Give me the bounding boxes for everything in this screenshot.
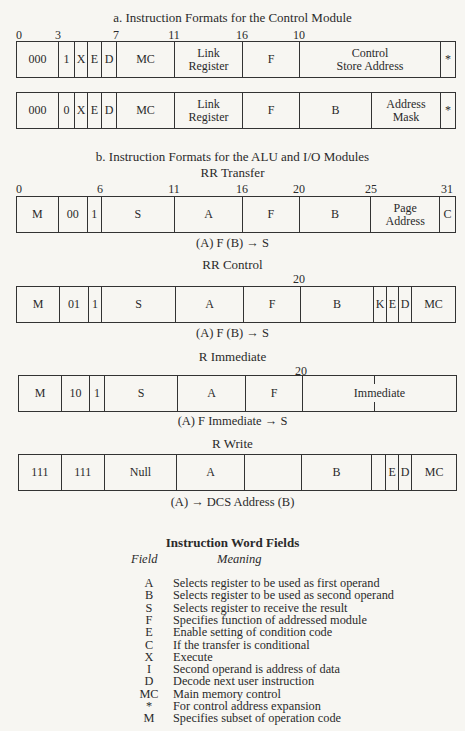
field-cell: 000 (17, 42, 58, 77)
rr-control-title: RR Control (0, 257, 465, 273)
bit-tick: 16 (236, 182, 248, 197)
field-cell: F (243, 287, 300, 322)
r-immediate-title: R Immediate (0, 349, 465, 365)
section-b-title: b. Instruction Formats for the ALU and I… (0, 149, 465, 165)
r-immediate-caption: (A) F Immediate → S (0, 414, 465, 429)
rr-transfer-caption: (A) F (B) → S (0, 236, 465, 251)
field-cell: 111 (19, 455, 61, 490)
bit-boundary-mark (374, 402, 375, 411)
section-a-title: a. Instruction Formats for the Control M… (0, 10, 465, 26)
bit-tick: 6 (97, 182, 103, 197)
field-cell: 1 (89, 376, 104, 411)
field-cell: 1 (88, 287, 101, 322)
r-immediate-format: M 10 1 S A F Immediate (18, 375, 457, 412)
field-cell: Address Mask (371, 93, 440, 128)
field-cell: B (301, 455, 372, 490)
bit-boundary-mark (374, 376, 375, 384)
field-cell: E (386, 287, 398, 322)
field-cell: 0 (58, 93, 74, 128)
field-cell: B (299, 197, 371, 232)
field-cell: F (242, 197, 299, 232)
legend-field-meaning: Specifies subset of operation code (173, 711, 341, 726)
field-cell: B (299, 93, 371, 128)
legend-field-code: M (138, 711, 160, 726)
field-cell: E (385, 455, 398, 490)
field-cell (371, 455, 385, 490)
bit-tick: 25 (365, 182, 377, 197)
field-cell: Page Address (370, 197, 439, 232)
field-cell (244, 455, 301, 490)
field-cell: F (242, 93, 299, 128)
field-cell: Link Register (174, 93, 242, 128)
field-cell: E (87, 42, 101, 77)
field-cell: A (175, 287, 243, 322)
rr-control-caption: (A) F (B) → S (0, 326, 465, 341)
field-cell: Null (104, 455, 177, 490)
field-cell: 01 (59, 287, 88, 322)
field-cell: K (373, 287, 386, 322)
field-cell: X (74, 93, 87, 128)
field-cell: 111 (61, 455, 104, 490)
field-cell: M (17, 197, 58, 232)
field-cell: MC (411, 455, 456, 490)
field-cell: D (398, 455, 411, 490)
field-cell: MC (116, 42, 174, 77)
field-cell: 10 (61, 376, 89, 411)
field-cell: S (101, 197, 175, 232)
r-write-format: 111 111 Null A B E D MC (18, 454, 457, 491)
legend-title: Instruction Word Fields (0, 535, 465, 551)
field-cell: S (104, 376, 177, 411)
field-cell: F (242, 42, 299, 77)
legend-field-header: Field (131, 552, 157, 567)
field-cell: * (440, 93, 455, 128)
field-cell: 000 (17, 93, 58, 128)
field-cell: Immediate (302, 376, 456, 411)
control-format-1: 000 1 X E D MC Link Register F Control S… (16, 41, 456, 78)
rr-transfer-format: M 00 1 S A F B Page Address C (16, 196, 456, 233)
field-cell: 1 (58, 42, 74, 77)
field-cell: 1 (87, 197, 101, 232)
field-cell: Control Store Address (299, 42, 440, 77)
r-write-caption: (A) → DCS Address (B) (0, 495, 465, 510)
field-cell: C (439, 197, 455, 232)
field-cell: D (101, 42, 116, 77)
field-cell: MC (411, 287, 455, 322)
legend-meaning-header: Meaning (217, 552, 261, 567)
field-cell: A (177, 376, 245, 411)
field-cell: X (74, 42, 87, 77)
bit-tick: 20 (293, 272, 305, 287)
field-cell: D (398, 287, 411, 322)
field-cell: M (17, 287, 59, 322)
bit-tick: 11 (168, 182, 180, 197)
field-cell: 00 (58, 197, 87, 232)
field-cell: M (19, 376, 61, 411)
bit-tick: 31 (441, 182, 453, 197)
field-cell: * (440, 42, 455, 77)
r-write-title: R Write (0, 436, 465, 452)
field-cell: Link Register (174, 42, 242, 77)
field-cell: A (174, 197, 242, 232)
field-cell: S (101, 287, 175, 322)
bit-tick: 0 (16, 182, 22, 197)
field-cell: A (176, 455, 244, 490)
field-cell: D (101, 93, 116, 128)
control-format-2: 000 0 X E D MC Link Register F B Address… (16, 92, 456, 129)
field-cell: F (245, 376, 302, 411)
rr-transfer-title: RR Transfer (0, 165, 465, 181)
field-cell: E (87, 93, 101, 128)
field-cell: B (300, 287, 373, 322)
field-cell: MC (116, 93, 174, 128)
bit-tick: 20 (293, 182, 305, 197)
rr-control-format: M 01 1 S A F B K E D MC (16, 286, 456, 323)
